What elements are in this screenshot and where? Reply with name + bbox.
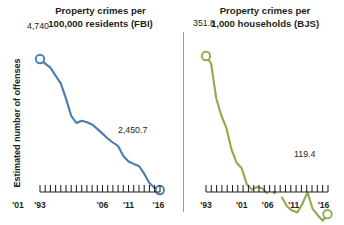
panel-fbi: Property crimes per 100,000 residents (F… [18,0,183,225]
bjs-line-series-part1 [206,56,267,193]
bjs-tick-label-1: '01 [236,200,248,210]
panel-fbi-title-line1: Property crimes per [55,5,146,16]
bjs-tick-label-4: '16 [318,200,330,210]
panel-bjs-title-line1: Property crimes per [220,5,311,16]
fbi-axis-ruler [18,183,183,199]
panel-fbi-svg [18,34,183,184]
fbi-tick-label-3: '11 [123,200,134,210]
bjs-start-value-label: 351.8 [193,18,215,28]
panel-bjs: Property crimes per 1,000 households (BJ… [186,0,344,225]
bjs-tick-label-2: '06 [262,200,274,210]
panel-bjs-svg [186,34,344,184]
bjs-tick-label-0: '93 [200,200,212,210]
fbi-tick-label-1: '01 [12,200,24,210]
dual-line-chart-figure: Estimated number of offenses Property cr… [0,0,344,225]
fbi-tick-label-2: '06 [97,200,109,210]
fbi-tick-label-4: '16 [153,200,165,210]
fbi-end-value-label: 2,450.7 [118,125,147,135]
fbi-start-marker [36,55,44,63]
panel-bjs-x-axis: '93 '01 '06 '11 '16 [186,183,344,217]
panel-bjs-plot: 351.8 119.4 [186,34,344,184]
bjs-end-value-label: 119.4 [294,149,315,159]
bjs-start-marker [202,52,210,60]
fbi-tick-labels: '93 '01 '06 '11 '16 [18,200,183,214]
panel-fbi-plot: 4,740 2,450.7 [18,34,183,184]
panel-divider [183,32,184,212]
bjs-tick-label-3: '11 [288,200,299,210]
fbi-tick-label-0: '93 [34,200,46,210]
bjs-tick-labels: '93 '01 '06 '11 '16 [186,200,344,214]
bjs-axis-ruler [186,183,344,199]
fbi-start-value-label: 4,740 [27,21,49,31]
panel-fbi-x-axis: '93 '01 '06 '11 '16 [18,183,183,217]
